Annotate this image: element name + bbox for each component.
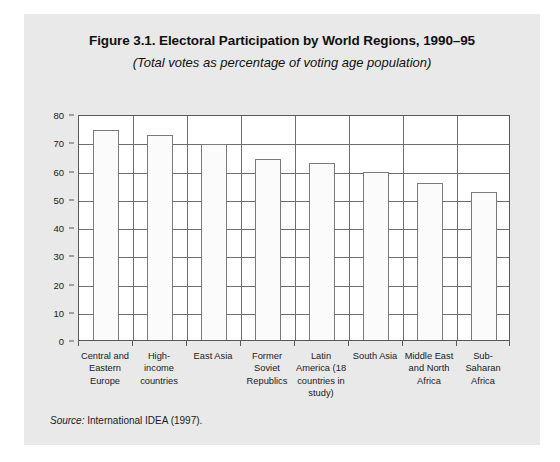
x-category-label-line: Republics <box>241 375 293 387</box>
x-tick-mark <box>509 341 510 346</box>
x-category-label-line: study) <box>295 387 347 399</box>
y-tick-mark <box>69 199 74 200</box>
category-separator <box>187 116 188 340</box>
x-category-label-line: Former <box>241 350 293 362</box>
gridline <box>79 257 509 258</box>
x-tick-mark <box>294 341 295 346</box>
y-tick-mark <box>69 228 74 229</box>
x-category-label-line: East Asia <box>187 350 239 362</box>
x-tick-mark <box>402 341 403 346</box>
x-category-label: East Asia <box>186 350 240 362</box>
x-category-label-line: South Asia <box>349 350 401 362</box>
x-tick-mark <box>240 341 241 346</box>
x-category-label: High-incomecountries <box>132 350 186 387</box>
plot-area <box>78 115 510 341</box>
x-category-label-line: Latin <box>295 350 347 362</box>
source-note: Source: International IDEA (1997). <box>50 415 202 426</box>
y-tick-mark <box>69 171 74 172</box>
y-tick-label: 60 <box>53 166 64 177</box>
x-category-label-line: High-income <box>133 350 185 375</box>
x-category-label-line: Soviet <box>241 362 293 374</box>
y-tick-label: 70 <box>53 138 64 149</box>
bar <box>201 144 227 340</box>
gridline <box>79 173 509 174</box>
gridline <box>79 314 509 315</box>
category-separator <box>457 116 458 340</box>
plot-inner <box>79 116 509 340</box>
x-axis: Central andEasternEuropeHigh-incomecount… <box>78 341 510 421</box>
title-block: Figure 3.1. Electoral Participation by W… <box>24 32 540 72</box>
y-tick-mark <box>69 312 74 313</box>
x-category-label: Central andEasternEurope <box>78 350 132 387</box>
bar <box>309 163 335 340</box>
y-tick-label: 10 <box>53 307 64 318</box>
y-tick-label: 20 <box>53 279 64 290</box>
gridline <box>79 229 509 230</box>
source-label: Source: <box>50 415 84 426</box>
x-category-label-line: Middle East <box>403 350 455 362</box>
gridline <box>79 201 509 202</box>
y-tick-label: 0 <box>59 336 64 347</box>
x-tick-mark <box>78 341 79 346</box>
x-tick-mark <box>132 341 133 346</box>
x-category-label-line: Europe <box>79 375 131 387</box>
y-tick-mark <box>69 284 74 285</box>
category-separator <box>241 116 242 340</box>
x-category-label: FormerSovietRepublics <box>240 350 294 387</box>
y-tick-label: 50 <box>53 194 64 205</box>
gridline <box>79 286 509 287</box>
y-axis: 01020304050607080 <box>24 115 74 341</box>
x-category-label-line: Sub-Saharan <box>457 350 509 375</box>
x-category-label-line: America (18 <box>295 362 347 374</box>
figure-panel: Figure 3.1. Electoral Participation by W… <box>24 14 540 445</box>
y-tick-mark <box>69 256 74 257</box>
x-category-label-line: Africa <box>457 375 509 387</box>
category-separator <box>295 116 296 340</box>
bar <box>147 135 173 340</box>
chart-title: Figure 3.1. Electoral Participation by W… <box>24 32 540 50</box>
source-text: International IDEA (1997). <box>84 415 202 426</box>
y-tick-label: 30 <box>53 251 64 262</box>
x-category-label: Middle Eastand NorthAfrica <box>402 350 456 387</box>
x-category-label-line: countries <box>133 375 185 387</box>
x-tick-mark <box>456 341 457 346</box>
bar <box>363 172 389 340</box>
bar <box>255 159 281 340</box>
bar <box>417 183 443 340</box>
y-tick-mark <box>69 143 74 144</box>
gridline <box>79 144 509 145</box>
y-tick-label: 40 <box>53 223 64 234</box>
x-category-label-line: Eastern <box>79 362 131 374</box>
x-category-label-line: Africa <box>403 375 455 387</box>
x-category-label: South Asia <box>348 350 402 362</box>
x-category-label-line: and North <box>403 362 455 374</box>
category-separator <box>133 116 134 340</box>
x-category-label: Sub-SaharanAfrica <box>456 350 510 387</box>
category-separator <box>403 116 404 340</box>
bar <box>471 192 497 340</box>
y-tick-label: 80 <box>53 110 64 121</box>
y-tick-mark <box>69 115 74 116</box>
chart-subtitle: (Total votes as percentage of voting age… <box>24 53 540 72</box>
x-category-label-line: Central and <box>79 350 131 362</box>
x-tick-mark <box>186 341 187 346</box>
x-category-label: LatinAmerica (18countries instudy) <box>294 350 348 400</box>
y-tick-mark <box>69 341 74 342</box>
x-category-label-line: countries in <box>295 375 347 387</box>
category-separator <box>349 116 350 340</box>
bar <box>93 130 119 340</box>
x-tick-mark <box>348 341 349 346</box>
